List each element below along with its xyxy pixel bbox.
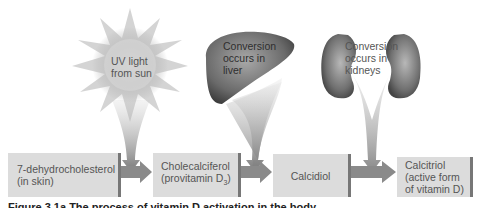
box-1-line1: 7-dehydrocholesterol xyxy=(17,163,115,175)
kidneys-label-line2: occurs in xyxy=(345,52,398,64)
box-7-dehydrocholesterol: 7-dehydrocholesterol (in skin) xyxy=(8,153,121,197)
box-2-line1: Cholecalciferol xyxy=(161,160,231,172)
box-calcitriol: Calcitriol (active form of vitamin D) xyxy=(397,157,473,197)
vitamin-d-pathway-diagram: UV light from sun Conversion occurs in l… xyxy=(0,0,485,208)
kidneys-label-line1: Conversion xyxy=(345,40,398,52)
kidneys-funnel-arrow xyxy=(352,74,390,172)
box-1-line2: (in skin) xyxy=(17,175,115,187)
box-3-line1: Calcidiol xyxy=(291,170,331,182)
sun-label-line1: UV light xyxy=(111,55,152,67)
box-2-line2: (provitamin D3) xyxy=(161,172,231,189)
box-4-line2: (active form xyxy=(405,171,464,183)
sun-label: UV light from sun xyxy=(111,55,152,79)
liver-label-line1: Conversion xyxy=(223,40,276,52)
liver-label-line3: liver xyxy=(223,64,276,76)
box-cholecalciferol: Cholecalciferol (provitamin D3) xyxy=(153,153,241,197)
sun-label-line2: from sun xyxy=(111,67,152,79)
liver-label: Conversion occurs in liver xyxy=(223,40,276,76)
kidneys-label: Conversion occurs in kidneys xyxy=(345,40,398,76)
box-calcidiol: Calcidiol xyxy=(273,154,351,197)
box-4-line1: Calcitriol xyxy=(405,159,464,171)
box-4-line3: of vitamin D) xyxy=(405,183,464,195)
liver-label-line2: occurs in xyxy=(223,52,276,64)
kidneys-label-line3: kidneys xyxy=(345,64,398,76)
figure-caption: Figure 3.1a The process of vitamin D act… xyxy=(8,201,316,208)
